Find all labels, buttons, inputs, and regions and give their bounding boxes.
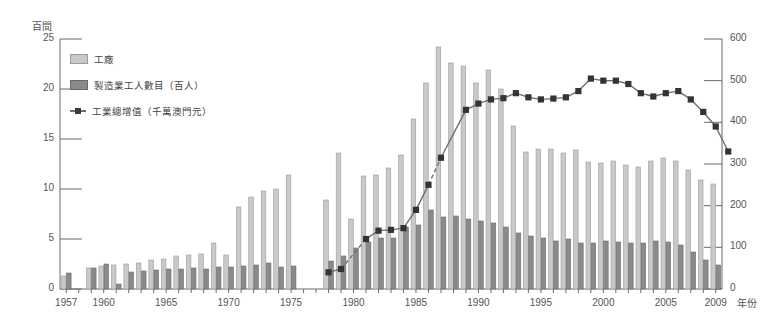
bar-factories-1987 xyxy=(436,47,441,289)
bar-factories-1999 xyxy=(586,162,591,289)
line-marker-2001 xyxy=(613,78,619,84)
bar-factories-1963 xyxy=(136,263,141,289)
right-axis-tick-600: 600 xyxy=(730,32,760,43)
bar-workers-1988 xyxy=(454,216,459,289)
x-axis-tick-1995: 1995 xyxy=(521,297,561,308)
bar-workers-1993 xyxy=(516,233,521,289)
bar-factories-1990 xyxy=(474,83,479,289)
bar-workers-1999 xyxy=(591,243,596,289)
bar-workers-1989 xyxy=(466,219,471,289)
bar-workers-1975 xyxy=(291,266,296,289)
legend-label-2: 工業總增值（千萬澳門元） xyxy=(92,106,212,117)
bar-factories-1969 xyxy=(211,243,216,289)
bar-workers-1968 xyxy=(204,269,209,289)
bar-workers-1981 xyxy=(366,242,371,289)
legend-swatch-factories xyxy=(70,54,88,64)
bar-factories-2001 xyxy=(611,161,616,289)
bar-workers-1984 xyxy=(404,227,409,289)
right-axis-tick-100: 100 xyxy=(730,240,760,251)
bar-factories-1961 xyxy=(111,265,116,289)
bar-factories-1985 xyxy=(411,119,416,289)
bar-workers-1957 xyxy=(67,273,72,289)
bar-factories-2003 xyxy=(636,167,641,289)
bar-factories-1984 xyxy=(399,155,404,289)
right-axis-tick-200: 200 xyxy=(730,199,760,210)
left-axis-tick-5: 5 xyxy=(30,232,54,243)
bar-factories-1993 xyxy=(511,126,516,289)
bar-factories-1997 xyxy=(561,153,566,289)
bar-factories-1970 xyxy=(224,255,229,289)
bar-factories-1992 xyxy=(499,89,504,289)
bar-workers-2004 xyxy=(654,241,659,289)
line-marker-2005 xyxy=(663,90,669,96)
line-marker-1998 xyxy=(575,88,581,94)
bar-workers-1990 xyxy=(479,221,484,289)
bar-factories-1972 xyxy=(249,197,254,289)
x-axis-tick-1975: 1975 xyxy=(271,297,311,308)
bar-factories-2004 xyxy=(648,161,653,289)
line-marker-1997 xyxy=(563,94,569,100)
bar-workers-1963 xyxy=(141,271,146,289)
right-axis-tick-500: 500 xyxy=(730,74,760,85)
line-marker-1984 xyxy=(400,225,406,231)
legend-line-marker-icon xyxy=(70,107,86,115)
x-axis-tick-1960: 1960 xyxy=(84,297,124,308)
bar-factories-1968 xyxy=(199,254,204,289)
line-marker-1993 xyxy=(513,90,519,96)
bar-factories-2007 xyxy=(686,170,691,289)
line-marker-1994 xyxy=(525,94,531,100)
bar-factories-2009 xyxy=(711,184,716,289)
bar-factories-1967 xyxy=(186,255,191,289)
x-axis-tick-2009: 2009 xyxy=(696,297,736,308)
bar-factories-2000 xyxy=(598,163,603,289)
line-marker-1995 xyxy=(538,96,544,102)
bar-workers-1987 xyxy=(441,217,446,289)
left-axis-tick-10: 10 xyxy=(30,182,54,193)
line-marker-2007 xyxy=(688,96,694,102)
bar-workers-1971 xyxy=(241,266,246,289)
line-marker-1992 xyxy=(500,95,506,101)
bar-workers-1994 xyxy=(529,236,534,289)
bar-workers-2007 xyxy=(691,252,696,289)
x-axis-tick-1985: 1985 xyxy=(396,297,436,308)
industry-statistics-chart: 百間 年份 0510152025010020030040050060019571… xyxy=(0,0,783,325)
bar-workers-2009 xyxy=(716,265,721,289)
line-marker-2006 xyxy=(675,88,681,94)
bar-workers-1965 xyxy=(166,269,171,289)
bar-workers-2005 xyxy=(666,242,671,289)
bar-factories-1959 xyxy=(86,268,91,289)
line-marker-2009 xyxy=(713,123,719,129)
legend-label-0: 工廠 xyxy=(94,54,114,65)
bar-workers-1962 xyxy=(129,272,134,289)
line-marker-1979 xyxy=(338,266,344,272)
line-marker-1978 xyxy=(325,269,331,275)
line-marker-1990 xyxy=(475,100,481,106)
bar-factories-2002 xyxy=(623,165,628,289)
bar-factories-1965 xyxy=(161,259,166,289)
left-axis-tick-0: 0 xyxy=(30,282,54,293)
left-axis-tick-25: 25 xyxy=(30,32,54,43)
bar-factories-1994 xyxy=(524,152,529,289)
legend-item-2: 工業總增值（千萬澳門元） xyxy=(70,104,212,118)
line-marker-2003 xyxy=(638,90,644,96)
legend-swatch-workers xyxy=(70,80,88,90)
bar-factories-1998 xyxy=(574,150,579,289)
bar-factories-1988 xyxy=(449,63,454,289)
bar-factories-1973 xyxy=(261,191,266,289)
line-marker-2000 xyxy=(600,78,606,84)
bar-factories-1996 xyxy=(549,149,554,289)
bar-workers-2000 xyxy=(604,241,609,289)
line-marker-2002 xyxy=(625,81,631,87)
left-axis-tick-15: 15 xyxy=(30,132,54,143)
line-marker-2004 xyxy=(650,93,656,99)
bar-factories-1991 xyxy=(486,70,491,289)
left-axis-tick-20: 20 xyxy=(30,82,54,93)
x-axis-tick-1990: 1990 xyxy=(458,297,498,308)
line-marker-1999 xyxy=(588,75,594,81)
bar-workers-1960 xyxy=(104,264,109,289)
line-marker-1985 xyxy=(413,207,419,213)
bar-factories-1964 xyxy=(149,260,154,289)
bar-workers-1991 xyxy=(491,223,496,289)
bar-workers-1995 xyxy=(541,238,546,289)
line-marker-1996 xyxy=(550,95,556,101)
